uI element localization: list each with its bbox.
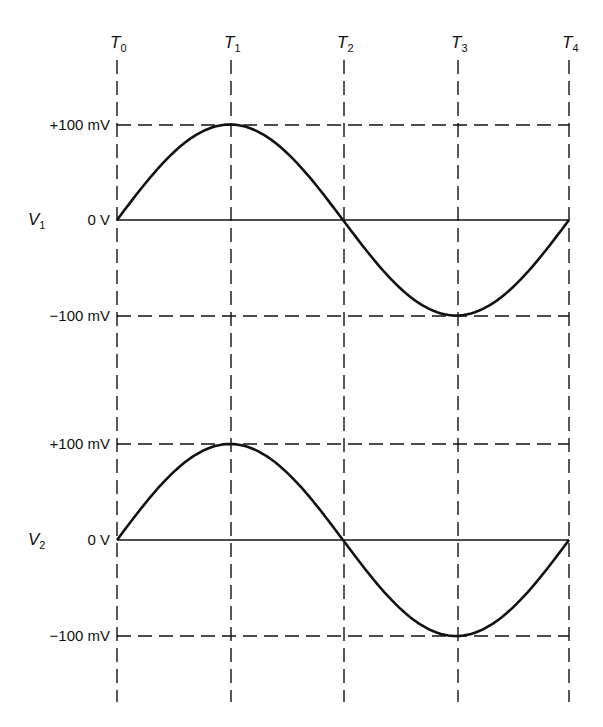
v2-signal-label: V2	[28, 530, 45, 551]
label-t4: T4	[562, 33, 579, 54]
v1-signal-label: V1	[28, 210, 45, 231]
label-t3: T3	[451, 33, 468, 54]
waveform-chart: T0 T1 T2 T3 T4 +100 mV 0 V −100 mV V1 +1…	[0, 0, 603, 727]
v1-minus100-label: −100 mV	[50, 307, 110, 324]
v2-minus100-label: −100 mV	[50, 627, 110, 644]
v1-plus100-label: +100 mV	[50, 116, 110, 133]
v2-zero-label: 0 V	[87, 531, 110, 548]
v1-zero-label: 0 V	[87, 211, 110, 228]
panel-v2: +100 mV 0 V −100 mV V2	[28, 435, 569, 644]
label-t0: T0	[110, 33, 127, 54]
label-t2: T2	[337, 33, 354, 54]
panel-v1: +100 mV 0 V −100 mV V1	[28, 116, 569, 324]
time-labels: T0 T1 T2 T3 T4	[110, 33, 579, 54]
time-gridlines	[117, 60, 569, 702]
label-t1: T1	[224, 33, 241, 54]
v2-plus100-label: +100 mV	[50, 435, 110, 452]
